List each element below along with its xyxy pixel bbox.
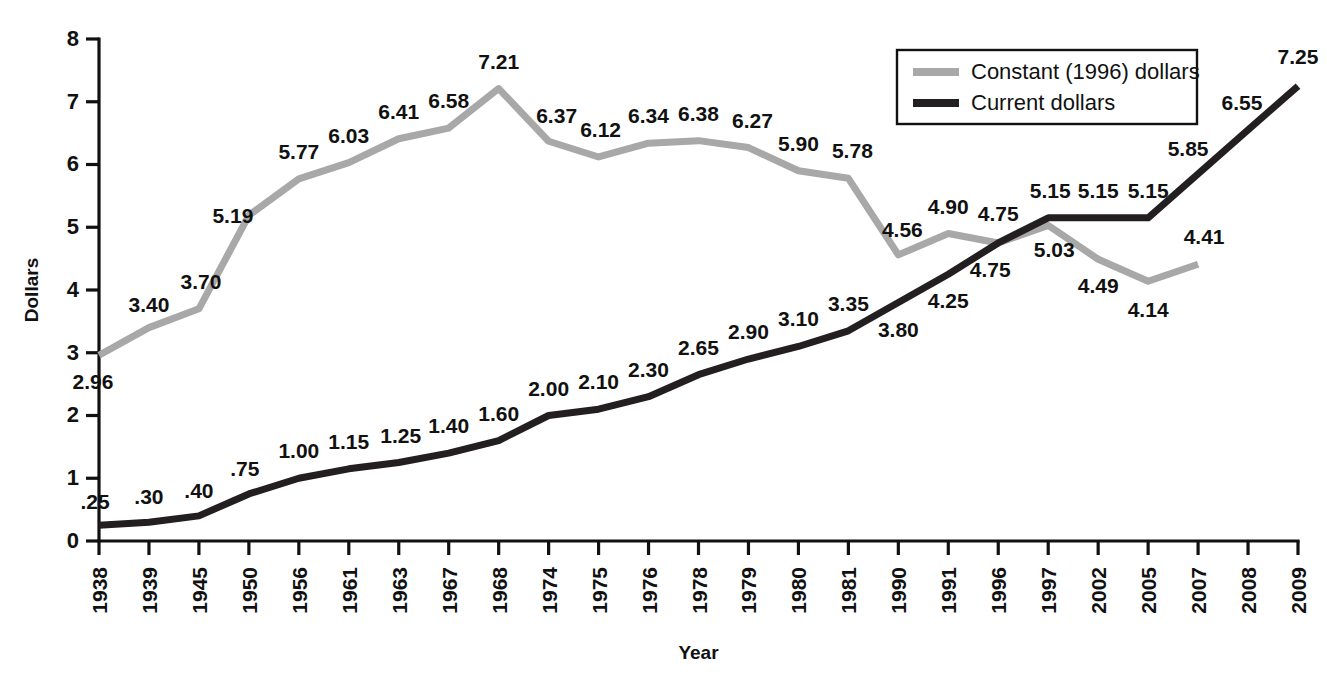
data-label-current-2002: 5.15 [1078,179,1119,202]
data-label-current-1991: 4.25 [928,289,969,312]
x-tick-label-1976: 1976 [638,567,661,614]
data-label-constant-2002: 4.49 [1078,274,1119,297]
data-label-current-1961: 1.15 [328,430,369,453]
legend-label-current-dollars: Current dollars [971,90,1115,115]
data-label-current-1950: .75 [230,457,260,480]
x-tick-label-2002: 2002 [1087,567,1110,614]
data-label-current-1945: .40 [184,479,213,502]
data-label-current-1939: .30 [134,485,163,508]
x-tick-label-1991: 1991 [937,567,960,614]
data-label-constant-1990: 4.56 [882,218,923,241]
x-tick-label-2008: 2008 [1237,567,1260,614]
x-tick-label-2005: 2005 [1137,567,1160,614]
x-tick-label-1996: 1996 [987,567,1010,614]
data-label-constant-1963: 6.41 [378,100,419,123]
x-tick-label-1968: 1968 [488,567,511,614]
y-tick-label: 8 [67,26,79,51]
chart-legend: Constant (1996) dollarsCurrent dollars [897,50,1200,124]
data-label-constant-1991: 4.90 [928,195,969,218]
data-label-current-1990: 3.80 [878,318,919,341]
y-tick-label: 5 [67,214,79,239]
x-tick-label-1978: 1978 [688,567,711,614]
x-tick-label-1956: 1956 [288,567,311,614]
x-tick-label-1981: 1981 [837,567,860,614]
x-tick-label-1997: 1997 [1037,567,1060,614]
data-label-current-1974: 2.00 [528,377,569,400]
y-tick-label: 3 [67,340,79,365]
data-label-constant-1961: 6.03 [328,124,369,147]
y-tick-label: 4 [67,277,80,302]
data-label-constant-1974: 6.37 [536,104,577,127]
chart-container: 012345678 193819391945195019561961196319… [0,0,1327,685]
data-label-constant-1945: 3.70 [180,270,221,293]
y-tick-group: 012345678 [67,26,99,553]
x-tick-label-1990: 1990 [887,567,910,614]
data-label-current-1938: .25 [80,490,110,513]
data-label-constant-1950: 5.19 [212,204,253,227]
data-label-current-2007: 5.85 [1168,137,1209,160]
data-label-current-1976: 2.30 [628,358,669,381]
x-tick-label-1963: 1963 [388,567,411,614]
x-tick-label-1975: 1975 [588,567,611,614]
data-label-current-1968: 1.60 [478,402,519,425]
data-label-constant-1956: 5.77 [278,140,319,163]
data-label-current-1997: 5.15 [1030,179,1071,202]
data-label-constant-1939: 3.40 [129,293,170,316]
data-label-constant-1978: 6.38 [678,102,719,125]
data-label-constant-2007: 4.41 [1184,225,1225,248]
data-label-constant-1968: 7.21 [478,50,519,73]
data-label-constant-1967: 6.58 [428,89,469,112]
x-tick-label-1939: 1939 [138,567,161,614]
y-tick-label: 2 [67,402,79,427]
data-label-constant-1980: 5.90 [778,132,819,155]
y-tick-label: 6 [67,151,79,176]
x-tick-label-2009: 2009 [1287,567,1310,614]
y-axis: 012345678 [67,26,99,553]
data-label-current-1979: 2.90 [728,320,769,343]
x-tick-label-1974: 1974 [538,567,561,614]
data-label-current-1967: 1.40 [428,414,469,437]
data-label-current-2008: 6.55 [1222,91,1263,114]
x-tick-label-1938: 1938 [88,567,111,614]
data-label-current-1978: 2.65 [678,336,719,359]
data-label-current-2005: 5.15 [1128,179,1169,202]
line-chart: 012345678 193819391945195019561961196319… [0,0,1327,685]
data-label-current-1963: 1.25 [380,424,421,447]
data-label-constant-2005: 4.14 [1128,298,1169,321]
y-tick-label: 7 [67,89,79,114]
data-label-current-2009: 7.25 [1278,45,1319,68]
data-label-constant-1981: 5.78 [832,139,873,162]
legend-label-constant-dollars: Constant (1996) dollars [971,59,1200,84]
data-label-current-1981: 3.35 [828,292,869,315]
x-tick-label-1979: 1979 [737,567,760,614]
x-tick-label-1967: 1967 [438,567,461,614]
x-tick-label-1961: 1961 [338,567,361,614]
x-tick-label-1980: 1980 [787,567,810,614]
data-label-constant-1997: 5.03 [1034,238,1075,261]
x-tick-label-1945: 1945 [188,567,211,614]
data-label-constant-1996: 4.75 [978,202,1019,225]
x-tick-label-2007: 2007 [1187,567,1210,614]
data-label-current-1975: 2.10 [578,370,619,393]
data-label-current-1980: 3.10 [778,307,819,330]
x-axis-title: Year [678,642,719,663]
x-axis: 1938193919451950195619611963196719681974… [88,541,1310,614]
x-tick-group: 1938193919451950195619611963196719681974… [88,541,1310,614]
data-label-constant-1979: 6.27 [732,109,773,132]
x-tick-label-1950: 1950 [238,567,261,614]
y-axis-title: Dollars [21,258,42,322]
y-tick-label: 0 [67,528,79,553]
data-label-constant-1938: 2.96 [73,370,114,393]
y-tick-label: 1 [67,465,79,490]
data-label-constant-1975: 6.12 [580,118,621,141]
data-label-current-1956: 1.00 [278,439,319,462]
data-label-constant-1976: 6.34 [628,104,669,127]
data-label-current-1996: 4.75 [970,258,1011,281]
